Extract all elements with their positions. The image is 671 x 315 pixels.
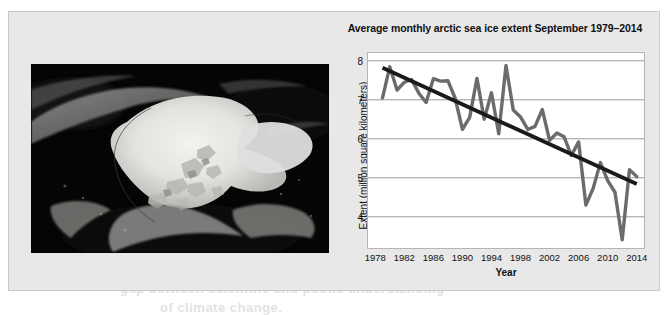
x-tick-1978: 1978 xyxy=(365,252,386,263)
y-tick-6: 6 xyxy=(341,133,363,144)
x-tick-1982: 1982 xyxy=(394,252,415,263)
y-tick-8: 8 xyxy=(341,55,363,66)
sea-ice-line xyxy=(383,65,637,239)
y-tick-7: 7 xyxy=(341,94,363,105)
x-tick-1986: 1986 xyxy=(423,252,444,263)
gridlines xyxy=(368,61,644,217)
x-tick-2010: 2010 xyxy=(597,252,618,263)
bleed-text-5: of climate change. xyxy=(160,300,282,315)
x-tick-1990: 1990 xyxy=(452,252,473,263)
figure-panel: Average monthly arctic sea ice extent Se… xyxy=(8,11,660,291)
x-tick-1994: 1994 xyxy=(481,252,502,263)
plot-svg xyxy=(368,53,644,248)
plot-area xyxy=(367,52,645,249)
y-tick-4: 4 xyxy=(341,211,363,222)
x-axis-label: Year xyxy=(367,267,645,278)
x-tick-1998: 1998 xyxy=(510,252,531,263)
chart-title: Average monthly arctic sea ice extent Se… xyxy=(339,22,651,34)
sea-ice-extent-chart: Average monthly arctic sea ice extent Se… xyxy=(339,22,651,284)
x-tick-2006: 2006 xyxy=(568,252,589,263)
y-tick-5: 5 xyxy=(341,172,363,183)
x-tick-2002: 2002 xyxy=(539,252,560,263)
x-axis-ticks: 1978198219861990199419982002200620102014 xyxy=(367,252,645,266)
y-axis-ticks: 45678 xyxy=(339,52,363,249)
arctic-sea-ice-satellite-image xyxy=(31,64,329,253)
x-tick-2014: 2014 xyxy=(626,252,647,263)
